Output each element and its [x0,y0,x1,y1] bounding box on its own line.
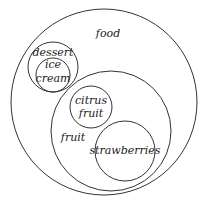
citrus-label: citrus [75,94,107,107]
fruit-label: fruit [60,131,86,144]
strawberries-label: strawberries [89,144,160,157]
citrus-fruit-label: fruit [78,107,104,120]
euler-diagram: food dessert ice cream citrus fruit frui… [0,0,207,203]
ice-label: ice [45,58,62,71]
cream-label: cream [36,72,71,85]
food-label: food [95,27,120,40]
